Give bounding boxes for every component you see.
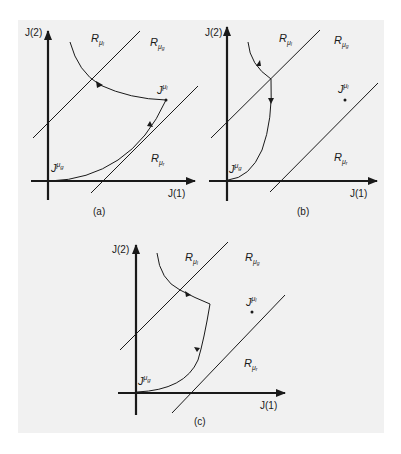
boundary-lower <box>91 86 198 193</box>
x-axis-label: J(1) <box>168 188 185 199</box>
region-label-R-mu-l: Rμl <box>91 32 105 47</box>
region-label-R-mu-g: Rμg <box>334 34 349 49</box>
y-axis-label: J(2) <box>25 27 42 38</box>
y-axis-label: J(2) <box>205 27 222 38</box>
boundary-lower <box>172 295 285 413</box>
point-label-J-mu-l: Jμl <box>337 82 349 95</box>
point-label-J-mu-l: Jμl <box>156 83 168 96</box>
region-label-R-mu-g: Rμg <box>150 36 165 51</box>
direction-arrow-icon <box>185 291 191 297</box>
point-label-J-mu-g: Jμg <box>137 374 151 387</box>
point-J-l <box>344 99 347 102</box>
point-label-J-mu-l: Jμl <box>245 295 257 308</box>
direction-arrow-icon <box>268 98 274 104</box>
region-label-R-mu-r: Rμr <box>151 152 165 167</box>
diagram-canvas: J(2) J(1) Rμl Rμg Rμr Jμl Jμg (a) J(2) J… <box>0 0 401 454</box>
x-axis-label: J(1) <box>350 188 367 199</box>
panel-a: J(2) J(1) Rμl Rμg Rμr Jμl Jμg (a) <box>25 27 198 217</box>
trajectory <box>248 42 271 79</box>
region-label-R-mu-l: Rμl <box>185 251 199 266</box>
direction-arrow-icon <box>256 60 261 66</box>
region-label-R-mu-r: Rμr <box>244 357 258 372</box>
trajectory <box>157 253 210 304</box>
direction-arrow-icon <box>147 121 153 127</box>
region-label-R-mu-l: Rμl <box>279 32 293 47</box>
direction-arrow-icon <box>194 347 200 352</box>
point-label-J-mu-g: Jμg <box>50 161 64 174</box>
point-label-J-mu-g: Jμg <box>228 162 242 175</box>
y-axis-label: J(2) <box>112 244 129 255</box>
point-J-l <box>251 311 254 314</box>
panel-c: J(2) J(1) Rμl Rμg Rμr Jμl Jμg (c) <box>112 242 285 427</box>
boundary-lower <box>270 83 378 192</box>
direction-arrow-icon <box>96 81 103 88</box>
x-axis-label: J(1) <box>260 400 277 411</box>
region-label-R-mu-g: Rμg <box>245 251 260 266</box>
region-label-R-mu-r: Rμr <box>334 151 348 166</box>
panel-caption: (b) <box>297 206 309 217</box>
panel-caption: (c) <box>194 416 206 427</box>
panel-b: J(2) J(1) Rμl Rμg Rμr Jμl Jμg (b) <box>205 27 378 217</box>
trajectory <box>50 100 166 181</box>
trajectory <box>70 42 166 100</box>
panel-caption: (a) <box>93 206 105 217</box>
point-J-l <box>165 99 168 102</box>
